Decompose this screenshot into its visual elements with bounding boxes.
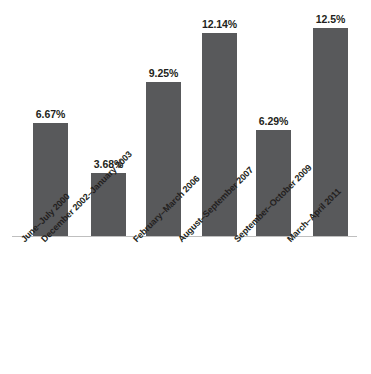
- category-axis-labels: June–July 2000 December 2002–January 200…: [0, 237, 371, 374]
- bar-chart-figure: 6.67% 3.68% 9.25% 12.14% 6.29% 12.5% Jun…: [0, 0, 371, 374]
- bar-value-label: 12.14%: [202, 18, 237, 30]
- bar-value-label: 6.67%: [36, 108, 65, 120]
- bar-value-label: 6.29%: [259, 115, 288, 127]
- bar-value-label: 9.25%: [149, 67, 178, 79]
- bar-value-label: 12.5%: [316, 13, 345, 25]
